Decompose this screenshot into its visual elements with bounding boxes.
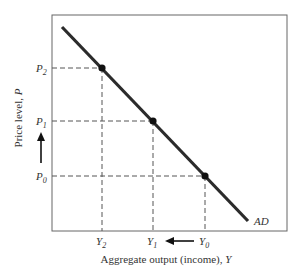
curve-label-ad: AD: [253, 215, 269, 227]
point-y1-p1: [149, 117, 156, 124]
x-tick-y0: Y0: [199, 235, 209, 250]
x-tick-y2: Y2: [96, 235, 106, 250]
plot-frame: [52, 15, 287, 231]
arrow-left-icon: [165, 237, 194, 245]
ad-chart: AD P2 P1 P0 Y2 Y1 Y0 Aggregate output (i…: [0, 0, 304, 266]
y-tick-p0: P0: [35, 170, 47, 185]
point-y2-p2: [98, 64, 105, 71]
arrow-up-icon: [37, 132, 45, 163]
dashed-guides: [52, 68, 205, 231]
x-tick-y1: Y1: [147, 235, 157, 250]
y-axis-label: Price level, P: [12, 88, 24, 147]
y-tick-p2: P2: [35, 62, 47, 77]
x-axis-label: Aggregate output (income), Y: [101, 253, 234, 266]
y-tick-p1: P1: [35, 115, 47, 130]
point-y0-p0: [201, 172, 208, 179]
ad-curve: [62, 27, 248, 221]
